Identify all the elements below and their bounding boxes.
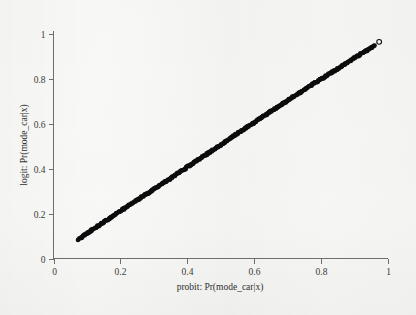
- x-axis-ticks: [55, 259, 389, 264]
- x-tick-label: 0.6: [249, 267, 261, 277]
- y-tick-label: 1: [41, 30, 46, 40]
- y-tick-label: 0: [41, 255, 46, 265]
- x-tick-label: 1: [386, 267, 391, 277]
- outlier-points-layer: [377, 39, 382, 44]
- scatter-plot: 00.20.40.60.81 00.20.40.60.81 probit: Pr…: [0, 0, 416, 315]
- y-axis-ticks: [49, 35, 54, 260]
- y-tick-label: 0.4: [34, 165, 46, 175]
- figure-canvas: 00.20.40.60.81 00.20.40.60.81 probit: Pr…: [0, 0, 416, 315]
- outlier-data-point: [377, 39, 382, 44]
- data-point: [372, 43, 377, 48]
- x-tick-label: 0.8: [316, 267, 328, 277]
- y-tick-label: 0.2: [34, 210, 46, 220]
- x-tick-label: 0: [52, 267, 57, 277]
- x-axis-title: probit: Pr(mode_car|x): [177, 282, 264, 293]
- y-tick-label: 0.8: [34, 75, 46, 85]
- x-tick-label: 0.4: [182, 267, 194, 277]
- y-axis-tick-labels: 00.20.40.60.81: [34, 30, 46, 265]
- y-axis-title: logit: Pr(mode_car|x): [19, 104, 30, 185]
- x-tick-label: 0.2: [115, 267, 127, 277]
- y-tick-label: 0.6: [34, 120, 46, 130]
- x-axis-tick-labels: 00.20.40.60.81: [52, 267, 391, 277]
- data-points-layer: [76, 43, 377, 242]
